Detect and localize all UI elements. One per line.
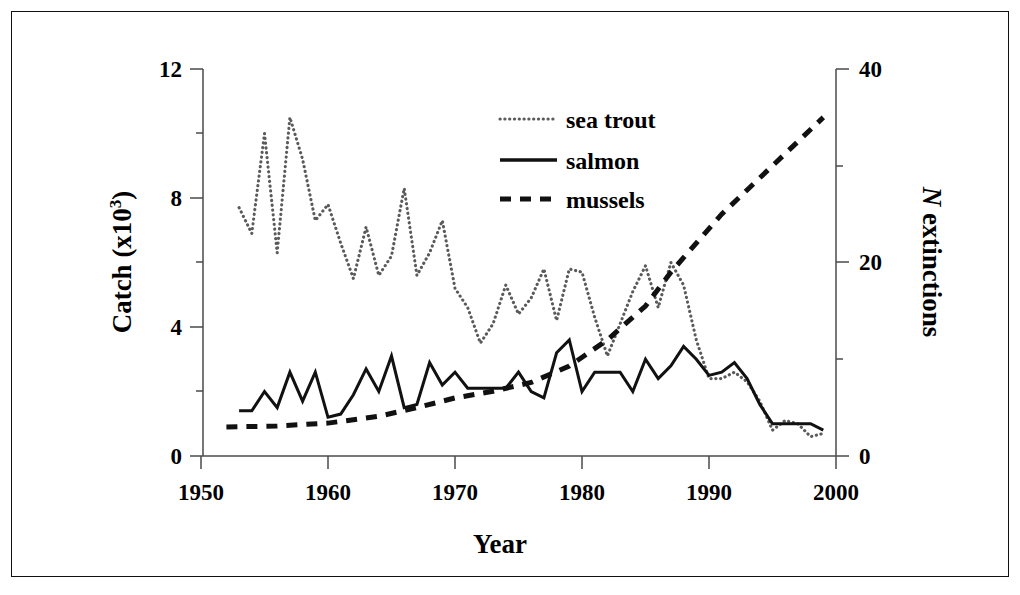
- right-axis-major-ticks: [836, 69, 849, 456]
- xtick-label: 1990: [686, 480, 732, 505]
- ytick-label: 0: [171, 444, 183, 469]
- ytick-label: 12: [159, 57, 182, 82]
- x-axis-title: Year: [473, 529, 527, 559]
- xtick-label: 1960: [305, 480, 351, 505]
- left-axis-tick-labels: 12 8 4 0: [159, 57, 183, 469]
- legend: sea trout salmon mussels: [500, 107, 656, 213]
- ytick-label: 4: [171, 315, 183, 340]
- series-line-sea-trout: [239, 117, 823, 436]
- xtick-label: 1980: [559, 480, 605, 505]
- y2tick-label: 40: [859, 57, 882, 82]
- y2-axis-title: N extinctions: [917, 186, 947, 338]
- x-axis-tick-labels: 1950 1960 1970 1980 1990 2000: [178, 480, 859, 505]
- ytick-label: 8: [171, 186, 183, 211]
- xtick-label: 1950: [178, 480, 224, 505]
- chart-canvas: 12 8 4 0 40 20 0 1950 1960 1970 1980 199…: [0, 0, 1020, 595]
- y-axis-title-main: Catch (x10: [107, 208, 137, 333]
- legend-label-salmon: salmon: [566, 148, 639, 174]
- y-axis-title: Catch (x103): [106, 191, 137, 334]
- x-axis-ticks: [201, 456, 836, 469]
- legend-label-mussels: mussels: [566, 187, 645, 213]
- y-axis-title-end: ): [107, 191, 137, 200]
- y-axis-title-superscript: 3: [106, 200, 125, 209]
- left-axis-minor-ticks: [196, 133, 203, 391]
- y2tick-label: 20: [859, 250, 882, 275]
- xtick-label: 1970: [432, 480, 478, 505]
- right-axis-tick-labels: 40 20 0: [859, 57, 882, 469]
- series-line-salmon: [239, 340, 823, 430]
- xtick-label: 2000: [813, 480, 859, 505]
- svg-text:N extinctions: N extinctions: [917, 186, 947, 338]
- y2-axis-title-rest: extinctions: [917, 206, 947, 337]
- y2-axis-title-italic: N: [917, 186, 947, 208]
- y2tick-label: 0: [859, 444, 871, 469]
- figure-container: 12 8 4 0 40 20 0 1950 1960 1970 1980 199…: [0, 0, 1020, 595]
- svg-text:Catch (x103): Catch (x103): [106, 191, 137, 334]
- legend-label-sea-trout: sea trout: [566, 107, 656, 133]
